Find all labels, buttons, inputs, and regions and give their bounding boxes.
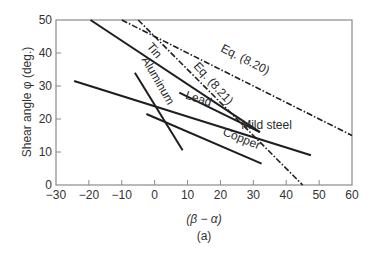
series-labels: Eq. (8.20)Eq. (8.21)TinAluminumLeadMild … bbox=[139, 40, 292, 153]
x-tick-label: 0 bbox=[151, 188, 158, 202]
label-aluminum: Aluminum bbox=[139, 54, 178, 107]
shear-angle-chart: −30−20−100102030405060 01020304050 Eq. (… bbox=[0, 0, 378, 256]
x-tick-label: 60 bbox=[345, 188, 359, 202]
x-tick-label: 40 bbox=[280, 188, 294, 202]
series-line-tin bbox=[91, 20, 260, 132]
y-tick-label: 30 bbox=[39, 79, 53, 93]
series-lines bbox=[74, 20, 352, 185]
label-mild-steel: Mild steel bbox=[241, 118, 292, 132]
x-tick-label: 30 bbox=[247, 188, 261, 202]
y-axis-ticks: 01020304050 bbox=[39, 13, 61, 192]
x-axis-label: (β − α) bbox=[186, 212, 221, 226]
y-axis-label: Shear angle φ (deg.) bbox=[20, 47, 34, 158]
y-tick-label: 10 bbox=[39, 145, 53, 159]
y-tick-label: 50 bbox=[39, 13, 53, 27]
x-tick-label: 20 bbox=[214, 188, 228, 202]
figure-caption: (a) bbox=[197, 229, 212, 243]
y-tick-label: 0 bbox=[45, 178, 52, 192]
x-axis-ticks: −30−20−100102030405060 bbox=[46, 180, 359, 202]
x-tick-label: −10 bbox=[112, 188, 133, 202]
x-tick-label: 50 bbox=[312, 188, 326, 202]
y-tick-label: 40 bbox=[39, 46, 53, 60]
x-tick-label: −20 bbox=[79, 188, 100, 202]
x-tick-label: 10 bbox=[181, 188, 195, 202]
y-tick-label: 20 bbox=[39, 112, 53, 126]
